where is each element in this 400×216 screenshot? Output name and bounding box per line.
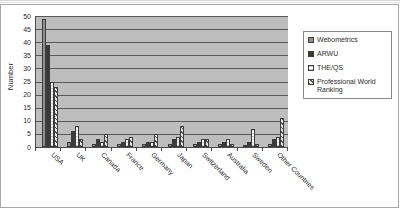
bar-group	[117, 16, 133, 147]
y-axis-tick-label: 35	[23, 52, 31, 59]
legend-label: ARWU	[317, 50, 338, 58]
y-axis-tick-label: 5	[27, 130, 31, 137]
y-axis-tick-label: 0	[27, 144, 31, 151]
x-axis-tick-label: Australia	[225, 151, 250, 176]
bar	[154, 134, 158, 147]
y-axis-tick-label: 30	[23, 65, 31, 72]
legend-item: ARWU	[308, 50, 388, 58]
y-axis-tick-labels: 05101520253035404550	[14, 13, 31, 149]
legend-item: THE/QS	[308, 64, 388, 72]
x-axis-tick-label: UK	[74, 151, 87, 164]
x-axis-tick-label: Sweden	[251, 151, 275, 175]
bar	[104, 134, 108, 147]
bar-group	[218, 16, 234, 147]
legend-swatch-icon	[308, 51, 314, 57]
y-axis-tick-label: 10	[23, 117, 31, 124]
y-axis-tick-label: 50	[23, 13, 31, 20]
bar-group	[243, 16, 259, 147]
legend-swatch-icon	[308, 65, 314, 71]
x-axis-tick-label: Germany	[150, 151, 176, 177]
legend-item: Webometrics	[308, 36, 388, 44]
bars-layer	[36, 16, 288, 147]
bar-group	[193, 16, 209, 147]
x-axis-tick-label: Canada	[99, 151, 122, 174]
bar	[280, 118, 284, 147]
legend-swatch-icon	[308, 79, 314, 85]
bar-chart-figure: Number 05101520253035404550 USAUKCanadaF…	[0, 0, 400, 216]
bar-group	[42, 16, 58, 147]
bar-group	[67, 16, 83, 147]
y-axis-tick-label: 15	[23, 104, 31, 111]
chart-legend: WebometricsARWUTHE/QSProfessional World …	[303, 31, 392, 99]
legend-item: Professional World Ranking	[308, 78, 388, 94]
bar	[54, 87, 58, 147]
y-axis-tick-label: 25	[23, 78, 31, 85]
y-axis-tick-label: 45	[23, 26, 31, 33]
y-axis-tick-label: 40	[23, 39, 31, 46]
bar	[180, 126, 184, 147]
scan-artifact-line	[0, 2, 400, 3]
bar	[79, 139, 83, 147]
bar-group	[168, 16, 184, 147]
x-axis-tick-label: France	[125, 151, 146, 172]
bar	[129, 137, 133, 147]
plot-area	[35, 16, 288, 148]
legend-label: Professional World Ranking	[317, 78, 388, 94]
x-axis-tick-label: Japan	[175, 151, 194, 170]
bar-group	[142, 16, 158, 147]
scan-artifact-line	[0, 0, 400, 1]
legend-label: THE/QS	[317, 64, 343, 72]
y-axis-tick-label: 20	[23, 91, 31, 98]
x-axis-tick-labels: USAUKCanadaFranceGermanyJapanSwitzerland…	[35, 151, 295, 209]
bar	[205, 139, 209, 147]
bar-group	[92, 16, 108, 147]
x-axis-tick-label: USA	[49, 151, 65, 167]
legend-swatch-icon	[308, 37, 314, 43]
legend-label: Webometrics	[317, 36, 358, 44]
bar-group	[268, 16, 284, 147]
